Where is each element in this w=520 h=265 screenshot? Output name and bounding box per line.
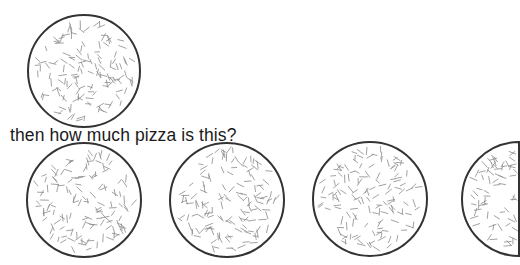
pizza-half-icon xyxy=(462,142,519,256)
pizza-whole-2-icon xyxy=(170,143,284,257)
pizza-worksheet: then how much pizza is this? xyxy=(0,0,520,265)
reference-pizza-icon xyxy=(28,15,140,127)
question-text: then how much pizza is this? xyxy=(10,125,237,146)
pizza-whole-1-icon xyxy=(27,143,141,257)
pizza-whole-3-icon xyxy=(313,142,427,256)
